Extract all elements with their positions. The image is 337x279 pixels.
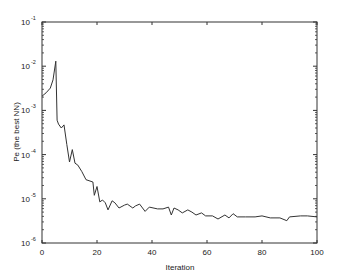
y-tick-label: 10	[21, 18, 30, 27]
y-tick-exponent: -1	[31, 15, 36, 21]
x-axis-label: Iteration	[166, 263, 195, 272]
y-tick-exponent: -5	[31, 192, 36, 198]
y-tick-label: 10	[21, 151, 30, 160]
y-tick-exponent: -3	[31, 103, 36, 109]
x-tick-label: 60	[203, 248, 212, 257]
minor-ticks	[42, 24, 317, 230]
x-axis-ticks: 020406080100	[40, 22, 324, 257]
plot-frame	[42, 22, 317, 243]
y-tick-exponent: -2	[31, 59, 36, 65]
y-tick-label: 10	[21, 62, 30, 71]
y-tick-label: 10	[21, 195, 30, 204]
pe-line	[42, 61, 317, 221]
line-chart: 020406080100 10-610-510-410-310-210-1 It…	[0, 0, 337, 279]
x-tick-label: 80	[258, 248, 267, 257]
y-tick-exponent: -6	[31, 236, 36, 242]
y-tick-label: 10	[21, 239, 30, 248]
y-axis-ticks: 10-610-510-410-310-210-1	[21, 15, 317, 248]
chart: 020406080100 10-610-510-410-310-210-1 It…	[0, 0, 337, 279]
x-tick-label: 100	[310, 248, 324, 257]
x-tick-label: 20	[93, 248, 102, 257]
y-tick-label: 10	[21, 106, 30, 115]
y-axis-label: Pe (the best NN)	[12, 102, 21, 162]
x-tick-label: 40	[148, 248, 157, 257]
y-tick-exponent: -4	[31, 148, 36, 154]
x-tick-label: 0	[40, 248, 45, 257]
